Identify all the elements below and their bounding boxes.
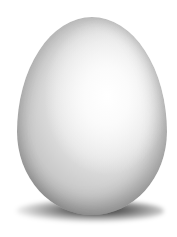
egg: [17, 17, 167, 215]
egg-photo-scene: [0, 0, 177, 237]
